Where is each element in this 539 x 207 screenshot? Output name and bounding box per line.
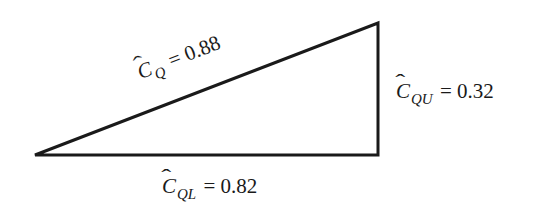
vertical-side-label: CQU = 0.32 [396,81,494,102]
triangle-diagram [0,0,539,207]
base-symbol: C [162,176,176,197]
base-value: 0.82 [221,174,258,198]
vertical-subscript: QU [411,91,433,107]
base-subscript: QL [177,186,196,202]
base-label: CQL = 0.82 [162,176,257,197]
vertical-value: 0.32 [457,79,494,103]
base-equals: = [203,174,215,198]
vertical-symbol: C [396,81,410,102]
hypotenuse-equals: = [165,45,185,72]
vertical-equals: = [440,79,452,103]
